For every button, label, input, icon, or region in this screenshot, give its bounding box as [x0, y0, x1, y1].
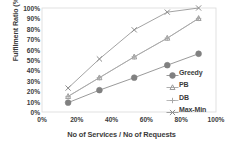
legend-item-db[interactable]: DB [166, 91, 228, 104]
triangle-icon [166, 79, 179, 90]
x-cross-icon [166, 104, 179, 115]
legend-label: Greedy [179, 69, 203, 76]
legend-label: Max-Min [179, 106, 206, 113]
legend-label: PB [179, 81, 189, 88]
plus-icon [166, 92, 179, 103]
data-point-marker [196, 51, 202, 57]
x-axis-title: No of Services / No of Requests [0, 130, 243, 139]
data-point-marker [65, 100, 71, 106]
legend-item-max-min[interactable]: Max-Min [166, 104, 228, 117]
legend-item-greedy[interactable]: Greedy [166, 66, 228, 79]
legend-label: DB [179, 94, 189, 101]
chart-container: Fulfilment Ratio (%) 0%10%20%30%40%50%60… [0, 0, 243, 144]
data-point-marker [170, 72, 176, 78]
filled-circle-icon [166, 67, 179, 78]
data-point-marker [131, 75, 137, 81]
data-point-marker [97, 87, 103, 93]
legend-item-pb[interactable]: PB [166, 79, 228, 92]
chart-legend: GreedyPBDBMax-Min [166, 66, 228, 116]
